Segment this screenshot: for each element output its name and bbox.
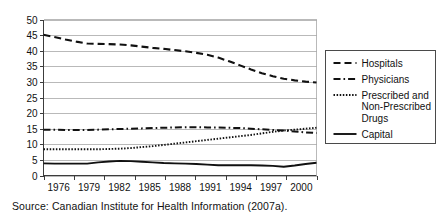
source-caption: Source: Canadian Institute for Health In… <box>12 200 287 212</box>
series-line-capital <box>44 161 317 167</box>
x-axis-tick-label: 1976 <box>48 182 71 193</box>
legend-label: Hospitals <box>362 58 403 69</box>
x-axis-tick-label: 1991 <box>199 182 222 193</box>
legend-label: Prescribed and <box>362 90 429 101</box>
x-axis-tick-label: 1982 <box>108 182 131 193</box>
gridlines-group <box>44 21 317 177</box>
x-axis-tick-label: 1985 <box>139 182 162 193</box>
legend-label: Capital <box>362 129 393 140</box>
y-axis-tick-label: 50 <box>26 15 38 26</box>
series-line-hospitals <box>44 35 317 83</box>
y-axis-tick-label: 0 <box>32 171 38 182</box>
data-series-group <box>44 35 317 167</box>
legend-label: Physicians <box>362 74 410 85</box>
figure-container: 05101520253035404550 1976197919821985198… <box>0 0 445 224</box>
y-axis-tick-label: 10 <box>26 139 38 150</box>
y-axis-tick-label: 30 <box>26 77 38 88</box>
tick-marks-group <box>40 21 318 180</box>
y-axis-tick-label: 25 <box>26 93 38 104</box>
y-axis-labels: 05101520253035404550 <box>26 15 38 182</box>
x-axis-tick-label: 1988 <box>169 182 192 193</box>
legend-label: Drugs <box>362 113 389 124</box>
y-axis-tick-label: 20 <box>26 108 38 119</box>
plot-frame <box>44 20 317 176</box>
y-axis-tick-label: 5 <box>32 155 38 166</box>
x-axis-tick-label: 1979 <box>78 182 101 193</box>
legend-label: Non-Prescribed <box>362 101 431 112</box>
y-axis-tick-label: 35 <box>26 61 38 72</box>
y-axis-tick-label: 40 <box>26 46 38 57</box>
line-chart: 05101520253035404550 1976197919821985198… <box>0 0 445 224</box>
chart-legend: HospitalsPhysiciansPrescribed andNon-Pre… <box>326 51 436 144</box>
x-axis-labels: 197619791982198519881991199419972000 <box>48 182 313 193</box>
series-line-prescribed-and-non-prescribed-drugs <box>44 128 317 150</box>
y-axis-tick-label: 15 <box>26 124 38 135</box>
x-axis-tick-label: 1997 <box>260 182 283 193</box>
x-axis-tick-label: 2000 <box>290 182 313 193</box>
y-axis-tick-label: 45 <box>26 30 38 41</box>
x-axis-tick-label: 1994 <box>230 182 253 193</box>
